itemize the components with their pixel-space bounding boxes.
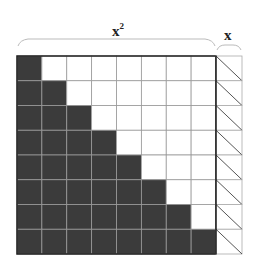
filled-cell (92, 205, 117, 230)
empty-cell (92, 106, 117, 131)
filled-cell (117, 205, 142, 230)
filled-cell (141, 229, 166, 254)
empty-cell (166, 180, 191, 205)
empty-cell (92, 56, 117, 81)
empty-cell (67, 56, 92, 81)
empty-cell (141, 81, 166, 106)
filled-cell (42, 106, 67, 131)
filled-cell (17, 106, 42, 131)
filled-cell (17, 56, 42, 81)
empty-cell (166, 81, 191, 106)
empty-cell (92, 81, 117, 106)
empty-cell (117, 81, 142, 106)
filled-cell (42, 155, 67, 180)
filled-cell (17, 205, 42, 230)
filled-cell (17, 155, 42, 180)
side-column (216, 56, 242, 254)
filled-cell (17, 81, 42, 106)
empty-cell (141, 130, 166, 155)
label-x-squared: x2 (112, 21, 125, 39)
empty-cell (191, 155, 216, 180)
filled-cell (17, 229, 42, 254)
filled-cell (67, 205, 92, 230)
filled-cell (141, 205, 166, 230)
filled-cell (166, 229, 191, 254)
empty-cell (166, 130, 191, 155)
filled-cell (92, 155, 117, 180)
filled-cell (92, 130, 117, 155)
side-brace (217, 45, 241, 50)
filled-cell (117, 155, 142, 180)
empty-cell (191, 81, 216, 106)
empty-cell (191, 56, 216, 81)
empty-cell (117, 56, 142, 81)
filled-cell (17, 180, 42, 205)
square-grid (17, 56, 216, 254)
filled-cell (67, 229, 92, 254)
empty-cell (42, 56, 67, 81)
filled-cell (92, 229, 117, 254)
filled-cell (166, 205, 191, 230)
filled-cell (92, 180, 117, 205)
top-brace (18, 39, 215, 46)
filled-cell (67, 130, 92, 155)
empty-cell (141, 56, 166, 81)
filled-cell (141, 180, 166, 205)
empty-cell (166, 155, 191, 180)
filled-cell (42, 180, 67, 205)
empty-cell (141, 106, 166, 131)
empty-cell (191, 180, 216, 205)
empty-cell (191, 205, 216, 230)
empty-cell (67, 81, 92, 106)
filled-cell (42, 205, 67, 230)
filled-cell (67, 155, 92, 180)
empty-cell (117, 106, 142, 131)
empty-cell (141, 155, 166, 180)
x-squared-plus-x-diagram: x2 x (0, 0, 255, 269)
filled-cell (42, 229, 67, 254)
empty-cell (191, 106, 216, 131)
empty-cell (117, 130, 142, 155)
label-x: x (224, 27, 232, 43)
empty-cell (191, 130, 216, 155)
filled-cell (17, 130, 42, 155)
filled-cell (67, 106, 92, 131)
empty-cell (166, 56, 191, 81)
filled-cell (117, 229, 142, 254)
filled-cell (117, 180, 142, 205)
filled-cell (67, 180, 92, 205)
empty-cell (166, 106, 191, 131)
filled-cell (42, 130, 67, 155)
filled-cell (191, 229, 216, 254)
filled-cell (42, 81, 67, 106)
